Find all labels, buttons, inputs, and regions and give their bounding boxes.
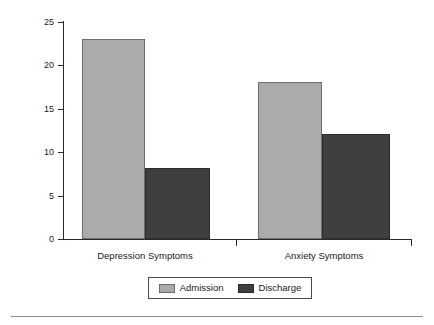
x-axis-line [63,239,412,240]
bar-depression-discharge [145,168,210,239]
bar-depression-admission [82,39,145,239]
legend-entry-discharge: Discharge [238,283,302,293]
legend-swatch-admission-icon [159,284,175,293]
x-tick-mark-axis-end [411,240,412,246]
bar-anxiety-admission [258,82,322,239]
y-tick-mark-0 [58,239,63,240]
chart-legend: Admission Discharge [148,277,312,299]
bars-layer [0,0,434,239]
legend-label-admission: Admission [180,283,224,293]
bar-chart-figure: Average Level of Symptoms 25 20 15 10 5 … [0,0,434,325]
bar-anxiety-discharge [322,134,390,239]
legend-entry-admission: Admission [159,283,224,293]
legend-label-discharge: Discharge [259,283,302,293]
legend-swatch-discharge-icon [238,284,254,293]
x-category-label-anxiety: Anxiety Symptoms [245,250,403,261]
x-tick-mark-category-separator [236,240,237,246]
footer-divider-rule [11,316,423,317]
x-category-label-depression: Depression Symptoms [66,250,224,261]
